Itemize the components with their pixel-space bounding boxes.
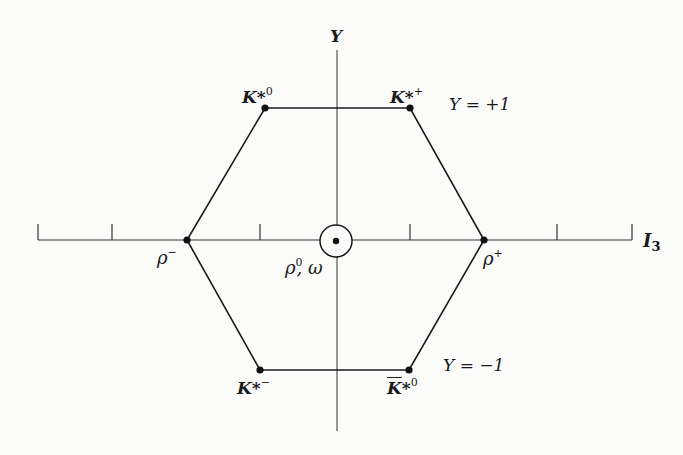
row-label-text: Y = −1	[443, 355, 504, 375]
particle-sup: 0	[266, 85, 273, 98]
label-rho-0-omega: ρ0, ω	[285, 257, 323, 277]
particle-sup: +	[494, 247, 503, 260]
particle-star: *	[252, 378, 261, 398]
particle-sup: −	[168, 246, 177, 259]
dot-k-star-minus	[256, 366, 263, 373]
row-label-y-plus-1: Y = +1	[449, 96, 510, 113]
label-k-bar-star-0: K*0	[387, 377, 418, 397]
x-axis-label-sub: 3	[651, 239, 660, 254]
particle-sup: 0	[411, 376, 418, 389]
y-axis-label: Y	[330, 28, 342, 45]
particle-suffix: , ω	[297, 257, 323, 278]
diagram-graphics	[0, 0, 683, 455]
dot-k-bar-star-0	[405, 366, 412, 373]
particle-base: K	[390, 87, 405, 107]
particle-base: ρ	[285, 257, 296, 278]
row-label-text: Y = +1	[449, 94, 510, 114]
row-label-y-minus-1: Y = −1	[443, 357, 504, 374]
particle-base: K	[242, 87, 257, 107]
label-k-star-minus: K*−	[237, 377, 270, 397]
weight-diagram: Y I3 Y = +1 Y = −1 K*0 K*+ ρ− ρ+ ρ0, ω K…	[0, 0, 683, 455]
particle-base: ρ	[157, 247, 168, 268]
label-k-star-plus: K*+	[390, 86, 423, 106]
particle-base-bar: K	[387, 378, 402, 398]
dot-rho-plus	[480, 236, 487, 243]
x-axis-label: I3	[643, 232, 660, 253]
particle-star: *	[405, 87, 414, 107]
label-rho-plus: ρ+	[483, 248, 503, 268]
particle-star: *	[257, 87, 266, 107]
y-axis-label-text: Y	[330, 26, 342, 46]
center-dot	[333, 238, 339, 244]
particle-base: K	[237, 378, 252, 398]
particle-base: ρ	[483, 248, 494, 269]
dot-rho-minus	[183, 236, 190, 243]
particle-sup: +	[414, 85, 423, 98]
particle-sup: −	[261, 376, 270, 389]
label-k-star-0: K*0	[242, 86, 273, 106]
particle-star: *	[402, 378, 411, 398]
label-rho-minus: ρ−	[157, 247, 177, 267]
